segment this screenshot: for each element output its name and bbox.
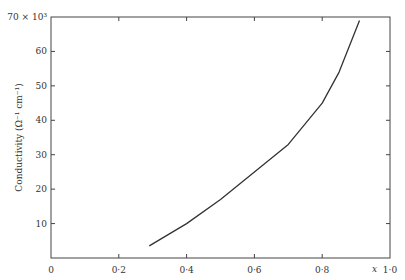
y-tick-label: 30 — [36, 150, 48, 160]
conductivity-curve — [149, 20, 359, 246]
y-tick-label: 40 — [36, 115, 48, 125]
y-tick-label: 20 — [36, 184, 48, 194]
y-tick-label: 70 × 10³ — [7, 12, 47, 22]
y-axis-label: Conductivity (Ω⁻¹ cm⁻¹) — [14, 83, 24, 191]
plot-frame — [51, 17, 390, 258]
x-tick-label: 1·0 — [383, 265, 398, 275]
x-tick-label: 0·4 — [179, 265, 194, 275]
x-axis-label: x — [372, 264, 377, 274]
x-tick-label: 0 — [48, 265, 54, 275]
y-tick-label: 60 — [36, 46, 48, 56]
x-tick-label: 0·8 — [315, 265, 330, 275]
y-tick-label: 10 — [36, 219, 48, 229]
x-tick-label: 0·2 — [112, 265, 126, 275]
y-tick-label: 50 — [36, 81, 48, 91]
conductivity-chart: 00·20·40·60·81·010203040506070 × 10³xCon… — [0, 0, 405, 280]
x-tick-label: 0·6 — [247, 265, 262, 275]
